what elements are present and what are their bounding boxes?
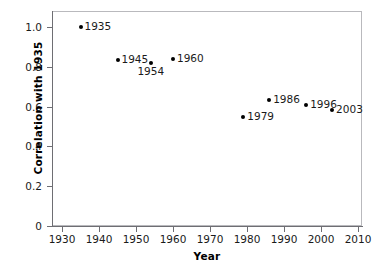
x-tick-label: 2000 — [301, 233, 341, 245]
x-tick-mark — [321, 227, 322, 232]
y-axis-spine — [52, 11, 53, 227]
data-point-label: 1960 — [177, 53, 204, 64]
x-tick-label: 1970 — [190, 233, 230, 245]
x-tick-label: 2010 — [338, 233, 378, 245]
x-tick-mark — [210, 227, 211, 232]
x-tick-label: 1990 — [264, 233, 304, 245]
data-point — [116, 58, 120, 62]
y-tick-mark — [47, 27, 52, 28]
data-point-label: 2003 — [336, 104, 363, 115]
data-point — [304, 103, 308, 107]
data-point — [241, 115, 245, 119]
data-point — [267, 98, 271, 102]
plot-area — [52, 11, 362, 226]
x-tick-label: 1980 — [227, 233, 267, 245]
x-tick-mark — [247, 227, 248, 232]
x-tick-label: 1930 — [42, 233, 82, 245]
data-point-label: 1935 — [85, 21, 112, 32]
y-tick-mark — [47, 67, 52, 68]
data-point — [79, 25, 83, 29]
y-tick-mark — [47, 186, 52, 187]
y-tick-label: 0 — [8, 220, 42, 232]
x-tick-mark — [62, 227, 63, 232]
data-point — [330, 108, 334, 112]
y-axis-title: Correlation with 1935 — [32, 8, 44, 208]
y-tick-mark — [47, 226, 52, 227]
x-tick-mark — [136, 227, 137, 232]
x-tick-mark — [99, 227, 100, 232]
x-tick-mark — [358, 227, 359, 232]
data-point-label: 1979 — [247, 111, 274, 122]
x-tick-mark — [284, 227, 285, 232]
data-point-label: 1954 — [137, 66, 164, 77]
x-tick-mark — [173, 227, 174, 232]
data-point-label: 1986 — [273, 94, 300, 105]
y-tick-mark — [47, 146, 52, 147]
x-tick-label: 1940 — [79, 233, 119, 245]
y-tick-mark — [47, 107, 52, 108]
x-tick-label: 1960 — [153, 233, 193, 245]
scatter-chart-figure: 193019401950196019701980199020002010 00.… — [0, 0, 379, 271]
data-point — [171, 57, 175, 61]
x-axis-title: Year — [52, 250, 362, 262]
x-tick-label: 1950 — [116, 233, 156, 245]
data-point-label: 1945 — [122, 54, 149, 65]
